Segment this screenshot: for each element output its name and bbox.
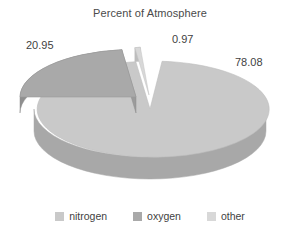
data-label-oxygen: 20.95: [26, 39, 54, 51]
pie-chart-graphic: [0, 0, 300, 233]
legend-swatch-icon: [133, 212, 142, 221]
legend-label-oxygen: oxygen: [147, 210, 181, 222]
data-label-nitrogen: 78.08: [235, 56, 263, 68]
legend-swatch-icon: [207, 212, 216, 221]
pie-slice-oxygen-top: [20, 50, 136, 97]
legend-swatch-icon: [55, 212, 64, 221]
legend-label-other: other: [221, 210, 245, 222]
legend-item-nitrogen[interactable]: nitrogen: [55, 210, 107, 222]
data-label-other: 0.97: [172, 33, 193, 45]
legend-item-oxygen[interactable]: oxygen: [133, 210, 181, 222]
legend-item-other[interactable]: other: [207, 210, 245, 222]
legend-label-nitrogen: nitrogen: [69, 210, 107, 222]
pie-chart-figure: Percent of Atmosphere: [0, 0, 300, 233]
chart-legend: nitrogen oxygen other: [0, 210, 300, 222]
